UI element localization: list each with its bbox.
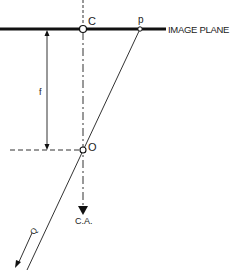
focal-arrowhead-top (45, 30, 50, 36)
label-f: f (39, 87, 42, 97)
label-p: p (138, 14, 144, 25)
ray-direction-line (18, 233, 32, 264)
camera-axis-arrowhead (78, 206, 88, 215)
pinhole-diagram: C p IMAGE PLANE f O C.A. Q (0, 0, 240, 270)
point-p-marker (138, 27, 142, 31)
label-ca: C.A. (75, 216, 93, 226)
label-c: C (88, 15, 96, 27)
point-c-marker (80, 26, 87, 33)
label-image-plane: IMAGE PLANE (168, 24, 229, 35)
label-o: O (88, 141, 97, 153)
label-q: Q (29, 226, 40, 236)
focal-arrowhead-bottom (45, 144, 50, 150)
ray-direction-arrowhead (15, 260, 21, 268)
point-o-marker (80, 147, 86, 153)
